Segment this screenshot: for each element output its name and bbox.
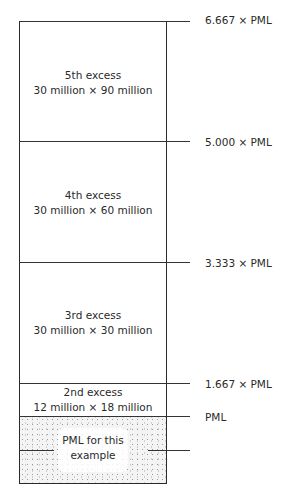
threshold-line-5000 [19,141,190,142]
layer-detail: 30 million × 60 million [19,203,167,218]
layer-2nd-excess: 2nd excess 12 million × 18 million [19,385,167,415]
layer-name: 2nd excess [19,385,167,400]
threshold-label-6667: 6.667 × PML [205,14,272,26]
threshold-label-pml: PML [205,411,226,423]
layer-detail: example [19,448,167,463]
layer-pml: PML for this example [19,433,167,463]
layer-4th-excess: 4th excess 30 million × 60 million [19,188,167,218]
threshold-line-1667 [19,383,190,384]
layer-name: PML for this [19,433,167,448]
layer-3rd-excess: 3rd excess 30 million × 30 million [19,308,167,338]
threshold-label-5000: 5.000 × PML [205,136,272,148]
layer-name: 3rd excess [19,308,167,323]
threshold-line-3333 [19,262,190,263]
layer-5th-excess: 5th excess 30 million × 90 million [19,68,167,98]
threshold-label-3333: 3.333 × PML [205,257,272,269]
layer-detail: 30 million × 30 million [19,323,167,338]
layer-name: 5th excess [19,68,167,83]
threshold-line-pml [19,416,190,417]
threshold-line-6667 [19,21,190,22]
layer-detail: 12 million × 18 million [19,400,167,415]
layer-detail: 30 million × 90 million [19,83,167,98]
layer-name: 4th excess [19,188,167,203]
threshold-label-1667: 1.667 × PML [205,378,272,390]
